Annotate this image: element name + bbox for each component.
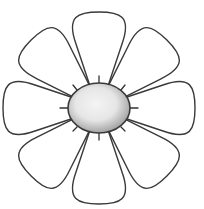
flower-svg xyxy=(0,0,204,209)
flower-illustration xyxy=(0,0,204,209)
flower-center xyxy=(68,83,130,133)
